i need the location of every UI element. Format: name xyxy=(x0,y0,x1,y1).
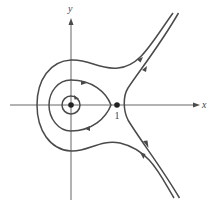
saddle-equilibrium-point xyxy=(114,102,120,108)
orbit-arrow-icon xyxy=(74,95,79,100)
right-separatrix-trajectory xyxy=(124,13,179,198)
saddle-label: 1 xyxy=(115,110,120,121)
x-axis-label: x xyxy=(201,99,207,110)
y-axis-arrow-icon xyxy=(69,18,74,25)
phase-portrait-diagram: x y 1 xyxy=(0,0,212,207)
orbit-arrow-icon xyxy=(84,126,90,131)
y-axis-label: y xyxy=(67,3,73,14)
axes: x y xyxy=(10,3,207,200)
center-equilibrium-point xyxy=(68,102,74,108)
x-axis-arrow-icon xyxy=(193,103,200,108)
outer-open-trajectory xyxy=(37,13,174,198)
trajectory-arrow-icon xyxy=(140,153,146,160)
